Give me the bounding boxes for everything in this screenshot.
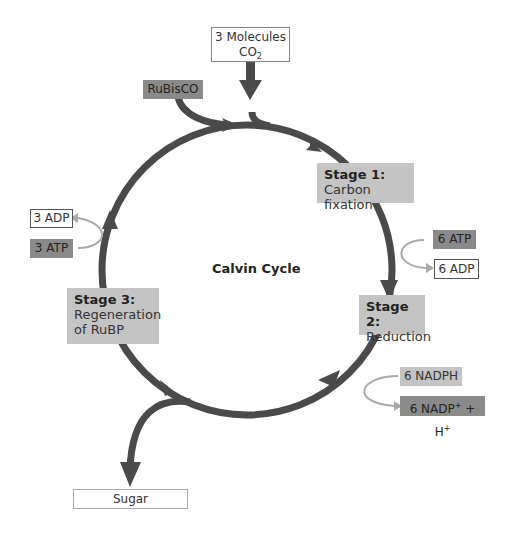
rubisco-feed-arrow [178, 97, 230, 125]
stage-2-description: Reduction [366, 329, 431, 344]
co2-input-box: 3 Molecules CO2 [211, 27, 290, 62]
sugar-output-box: Sugar [73, 489, 188, 509]
sugar-arrowhead [120, 462, 141, 487]
nadph-arrow-stage2 [364, 376, 398, 406]
stage-3-description-line2: of RuBP [74, 322, 152, 337]
atp-adp-arrow-stage3 [78, 218, 102, 248]
stage-2-box: Stage 2: Reduction [359, 295, 425, 335]
stage1-adp-box: 6 ADP [434, 259, 479, 279]
cycle-title: Calvin Cycle [212, 261, 300, 276]
rubisco-box: RuBisCO [143, 80, 203, 99]
atp-adp-arrow-stage1 [401, 240, 426, 268]
co2-feed-stub [252, 112, 270, 126]
stage-1-heading: Stage 1: [324, 167, 407, 182]
stage1-atp-box: 6 ATP [433, 230, 476, 249]
co2-arrowhead [239, 80, 262, 100]
stage-2-heading: Stage 2: [366, 299, 418, 329]
stage3-adp-box: 3 ADP [30, 209, 73, 228]
stage-3-description-line1: Regeneration [74, 307, 152, 322]
stage2-nadph-box: 6 NADPH [400, 367, 462, 386]
stage-1-box: Stage 1: Carbon fixation [317, 163, 414, 203]
rubisco-label: RuBisCO [147, 82, 198, 96]
stage-3-heading: Stage 3: [74, 292, 152, 307]
stage-3-box: Stage 3: Regeneration of RuBP [67, 288, 159, 344]
sugar-label: Sugar [113, 492, 148, 506]
stage-1-description: Carbon fixation [324, 182, 373, 212]
stage3-atp-box: 3 ATP [30, 239, 73, 258]
sugar-branch-arrow [130, 401, 190, 470]
stage2-nadp-box: 6 NADP+ + H+ [400, 396, 485, 416]
co2-count-label: 3 Molecules [212, 30, 289, 45]
co2-formula: CO2 [212, 45, 289, 64]
